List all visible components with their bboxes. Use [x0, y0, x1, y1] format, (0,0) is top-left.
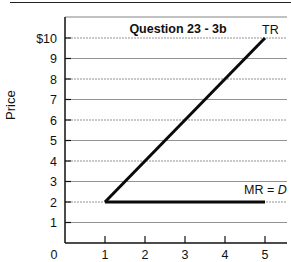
y-tick-label: 1	[50, 216, 57, 230]
x-tick-label: 0	[51, 248, 58, 262]
mr-label-d: D	[278, 183, 287, 197]
x-tick-label: 1	[102, 248, 109, 262]
y-tick-label: 3	[50, 175, 57, 189]
y-tick-label: 8	[50, 73, 57, 87]
tr-label: TR	[262, 23, 279, 37]
y-tick-label: 4	[50, 155, 57, 169]
ticks: 123456789$10012345	[36, 32, 268, 262]
y-tick-label: 5	[50, 134, 57, 148]
y-tick-label: 2	[50, 196, 57, 210]
y-tick-label: 7	[50, 93, 57, 107]
y-tick-label: 6	[50, 114, 57, 128]
chart-title: Question 23 - 3b	[129, 22, 227, 36]
x-tick-label: 5	[262, 248, 269, 262]
mr-label-prefix: MR =	[244, 183, 278, 197]
x-tick-label: 4	[222, 248, 229, 262]
mr-label: MR = D	[244, 183, 287, 197]
y-tick-label: $10	[36, 32, 57, 46]
y-tick-label: 9	[50, 52, 57, 66]
x-tick-label: 3	[182, 248, 189, 262]
chart: 123456789$10012345 Question 23 - 3b TR M…	[0, 0, 291, 262]
x-tick-label: 2	[142, 248, 149, 262]
